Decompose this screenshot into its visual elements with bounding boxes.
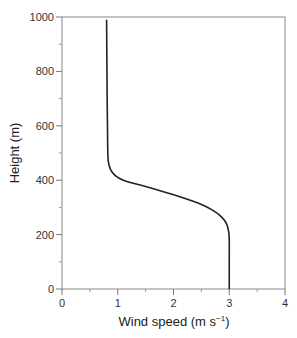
y-tick-label: 600 <box>36 120 54 132</box>
y-axis-title: Height (m) <box>7 123 22 184</box>
y-tick-label: 400 <box>36 174 54 186</box>
x-axis-title: Wind speed (m s−1) <box>118 314 229 329</box>
x-axis-title-end: ) <box>225 314 229 329</box>
x-axis-ticks: 01234 <box>59 289 288 309</box>
x-tick-label: 3 <box>226 297 232 309</box>
y-tick-label: 1000 <box>30 11 54 23</box>
x-tick-label: 1 <box>115 297 121 309</box>
y-tick-label: 0 <box>48 283 54 295</box>
x-tick-label: 4 <box>282 297 288 309</box>
x-tick-label: 0 <box>59 297 65 309</box>
x-tick-label: 2 <box>170 297 176 309</box>
wind-profile-chart: 02004006008001000 01234 Height (m) Wind … <box>0 0 297 338</box>
y-axis-ticks: 02004006008001000 <box>30 11 62 295</box>
y-tick-label: 200 <box>36 229 54 241</box>
x-axis-title-main: Wind speed (m s <box>118 314 216 329</box>
wind-speed-profile-line <box>107 20 230 289</box>
y-tick-label: 800 <box>36 65 54 77</box>
plot-frame <box>62 17 285 289</box>
plot-border <box>62 17 285 289</box>
